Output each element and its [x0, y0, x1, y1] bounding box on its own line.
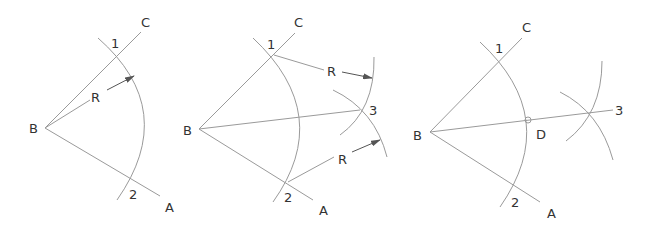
label-c: C [294, 15, 303, 30]
arc-from-b [98, 38, 144, 200]
diagram-step-1-labels: B C A 1 2 R [29, 15, 174, 215]
diagram-step-2 [199, 33, 387, 202]
arc-from-point-1 [340, 57, 374, 135]
arc-from-b [480, 42, 527, 207]
line-b-3 [199, 110, 360, 129]
label-b: B [183, 123, 192, 138]
label-point-2: 2 [129, 187, 137, 202]
label-point-3: 3 [615, 103, 623, 118]
label-point-1: 1 [495, 41, 503, 56]
label-r-2: R [338, 152, 347, 167]
label-point-1: 1 [111, 36, 119, 51]
label-a: A [319, 203, 328, 218]
diagram-step-3-labels: B C A 1 2 3 D [413, 20, 623, 221]
angle-bisector-construction: B C A 1 2 R B C A 1 2 3 R R [0, 0, 652, 231]
arc-from-point-2 [560, 92, 613, 160]
ray-bc [199, 33, 295, 129]
label-d: D [536, 127, 546, 142]
label-point-2: 2 [284, 190, 292, 205]
ray-ba [199, 129, 313, 200]
label-c: C [522, 20, 531, 35]
label-b: B [29, 121, 38, 136]
arc-from-point-2 [333, 90, 387, 157]
radius-arrow-1 [342, 72, 372, 78]
ray-ba [430, 132, 540, 202]
label-point-1: 1 [267, 37, 275, 52]
radius-arrow [107, 76, 134, 90]
arc-from-point-1 [566, 61, 602, 141]
radius-line [45, 100, 90, 128]
ray-bc [430, 38, 522, 132]
label-c: C [141, 15, 150, 30]
ray-ba [45, 128, 160, 196]
diagram-step-3 [430, 38, 613, 207]
label-r: R [91, 90, 100, 105]
radius-line-1 [274, 55, 324, 70]
label-r-1: R [327, 64, 336, 79]
radius-arrow-2 [352, 140, 380, 152]
label-a: A [165, 200, 174, 215]
label-b: B [413, 128, 422, 143]
label-a: A [547, 206, 556, 221]
label-point-2: 2 [511, 195, 519, 210]
label-point-3: 3 [369, 103, 377, 118]
diagram-step-1 [45, 32, 160, 200]
